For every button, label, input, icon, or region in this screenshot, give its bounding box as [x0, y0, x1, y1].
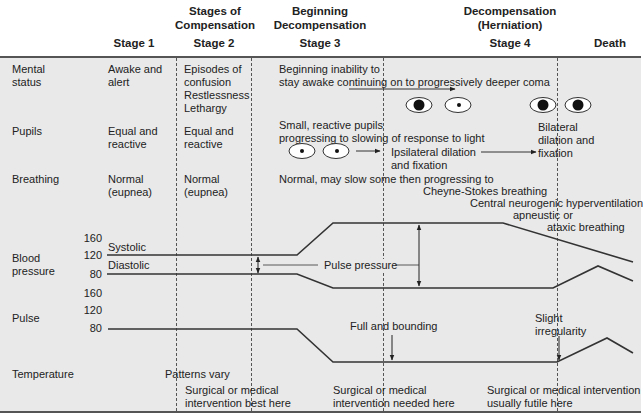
pulse-pressure-large-arrow [395, 225, 419, 286]
pulse-pressure-small-arrow [258, 257, 318, 273]
ipsilateral-dilated-pupil-icon [406, 98, 471, 113]
bilateral-dilated-pupils-icon [530, 98, 591, 113]
diastolic-line [107, 266, 633, 288]
small-reactive-pupils-icon [289, 144, 349, 159]
pulse-line [108, 329, 633, 362]
systolic-line [107, 223, 633, 262]
